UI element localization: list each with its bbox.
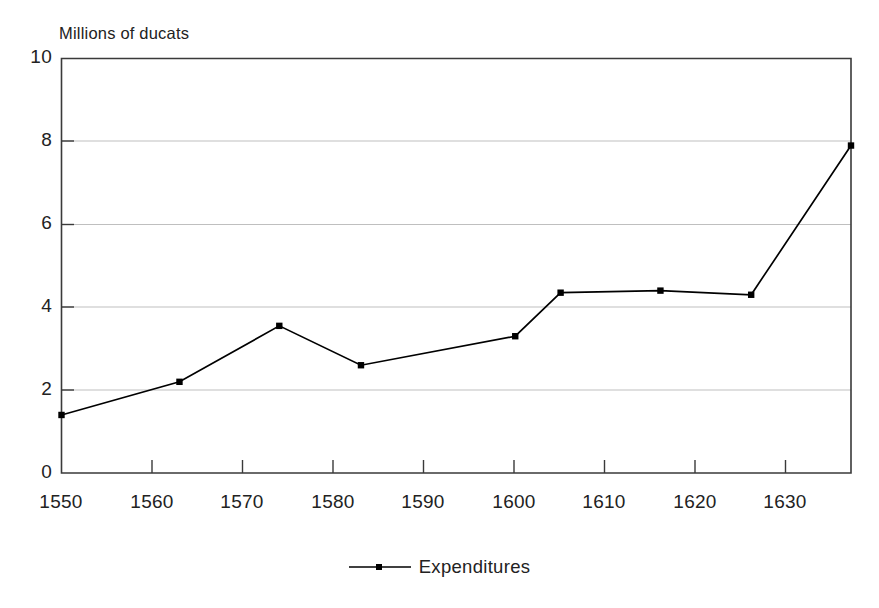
data-point-marker — [657, 287, 663, 293]
y-tick-label: 8 — [6, 129, 52, 151]
x-tick-label: 1620 — [655, 491, 735, 513]
x-tick-label: 1590 — [383, 491, 463, 513]
y-tick-label: 0 — [6, 461, 52, 483]
x-tick-label: 1560 — [112, 491, 192, 513]
legend-line-marker-icon — [349, 560, 411, 574]
y-tick-label: 2 — [6, 378, 52, 400]
x-tick-label: 1610 — [564, 491, 644, 513]
x-tick-label: 1550 — [21, 491, 101, 513]
data-point-marker — [176, 379, 182, 385]
y-tick-label: 10 — [6, 46, 52, 68]
data-point-marker — [512, 333, 518, 339]
data-point-marker — [58, 412, 64, 418]
data-point-marker — [557, 289, 563, 295]
legend-entry-expenditures: Expenditures — [349, 556, 531, 578]
expenditures-line-chart-figure: Millions of ducats — [0, 0, 879, 608]
data-point-marker — [748, 292, 754, 298]
x-tick-label: 1630 — [745, 491, 825, 513]
data-point-marker — [358, 362, 364, 368]
x-tick-label: 1600 — [474, 491, 554, 513]
legend-label: Expenditures — [419, 556, 531, 578]
x-tick-marks — [152, 460, 786, 473]
plot-frame — [62, 59, 852, 474]
y-tick-marks — [62, 141, 75, 390]
data-point-marker — [848, 142, 854, 148]
data-point-marker — [276, 323, 282, 329]
x-tick-label: 1570 — [202, 491, 282, 513]
x-tick-label: 1580 — [293, 491, 373, 513]
series-line — [62, 146, 852, 415]
legend: Expenditures — [0, 556, 879, 578]
y-tick-label: 4 — [6, 295, 52, 317]
y-tick-label: 6 — [6, 212, 52, 234]
plot-area — [0, 0, 879, 608]
gridlines — [61, 141, 851, 390]
series-expenditures — [58, 142, 854, 418]
